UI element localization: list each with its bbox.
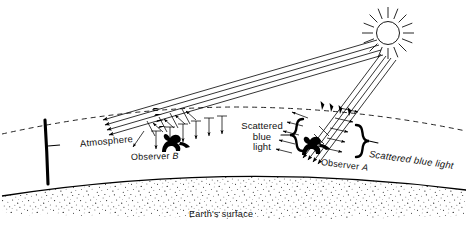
observer-b-label: Observer B xyxy=(131,151,179,162)
scattered-blue-light-label-left: Scattered blue light xyxy=(235,121,289,153)
scattered-left-line-3: light xyxy=(235,142,289,153)
observer-b-prefix: Observer xyxy=(131,151,173,162)
bracket-icon xyxy=(45,120,60,184)
scattering-diagram xyxy=(0,0,468,233)
observer-b-letter: B xyxy=(172,151,178,161)
atmosphere-boundary-arc xyxy=(2,107,466,134)
figure-canvas: Atmosphere Observer B Observer A Scatter… xyxy=(0,0,468,233)
earth-surface-label: Earth's surface xyxy=(189,209,253,219)
observer-figure-icon xyxy=(302,137,330,155)
observer-figure-icon xyxy=(162,134,190,152)
sun-icon xyxy=(362,7,414,59)
observer-a-letter: A xyxy=(361,162,368,173)
